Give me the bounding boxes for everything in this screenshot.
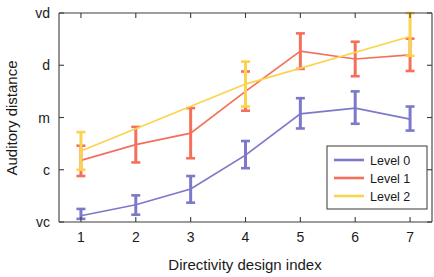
chart-legend: Level 0Level 1Level 2 [327,146,427,209]
y-tick-label: c [43,162,50,178]
legend-label-1: Level 1 [370,172,410,186]
x-tick-label: 2 [132,229,140,245]
x-tick-label: 6 [351,229,359,245]
y-tick-label: m [38,110,50,126]
auditory-distance-line-chart: 1234567vccmdvd Auditory distance Directi… [0,0,434,277]
chart-container: 1234567vccmdvd Auditory distance Directi… [0,0,434,277]
y-axis-title: Auditory distance [3,60,20,175]
legend-label-0: Level 0 [370,154,410,168]
x-tick-label: 4 [242,229,250,245]
y-tick-label: vc [36,214,50,230]
x-axis-title: Directivity design index [168,256,322,273]
x-tick-label: 3 [187,229,195,245]
legend-label-2: Level 2 [370,190,410,204]
x-tick-label: 5 [296,229,304,245]
y-tick-label: d [42,57,50,73]
x-tick-label: 7 [406,229,414,245]
y-tick-label: vd [35,5,50,21]
x-tick-label: 1 [77,229,85,245]
